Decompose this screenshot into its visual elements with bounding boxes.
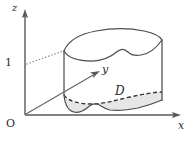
region-d-fill	[64, 92, 162, 112]
y-axis-label: y	[102, 64, 108, 75]
z-axis-label: z	[12, 3, 17, 13]
cylinder-top-back-rim	[64, 29, 162, 51]
origin-label: O	[6, 118, 15, 129]
y-axis-arrowhead	[90, 71, 100, 78]
z-tick-label-1: 1	[5, 57, 12, 68]
region-d-label: D	[115, 85, 125, 97]
cylinder-top-front-rim	[64, 40, 162, 61]
x-axis-label: x	[178, 120, 184, 131]
figure-canvas: z x y D 1 O	[0, 0, 189, 142]
diagram-svg	[0, 0, 189, 142]
height-one-guide	[27, 51, 63, 64]
